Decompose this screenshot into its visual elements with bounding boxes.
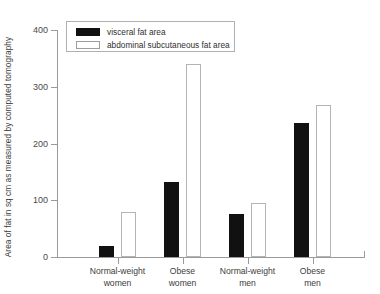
- y-axis-tick: [51, 257, 57, 258]
- bar-subcutaneous-0: [121, 212, 136, 257]
- bar-visceral-3: [294, 123, 309, 257]
- x-axis-tick: [313, 258, 314, 264]
- x-axis-tick: [248, 258, 249, 264]
- legend-swatch-open-icon: [76, 41, 100, 49]
- legend-item-subcutaneous: abdominal subcutaneous fat area: [76, 39, 234, 50]
- x-axis-tick: [118, 258, 119, 264]
- bar-visceral-0: [99, 246, 114, 257]
- y-axis-tick-label: 100: [8, 195, 48, 205]
- bar-subcutaneous-1: [186, 64, 201, 257]
- bar-subcutaneous-2: [251, 203, 266, 257]
- bar-subcutaneous-3: [316, 105, 331, 257]
- bar-visceral-1: [164, 182, 179, 257]
- y-axis-tick-label: 0: [8, 252, 48, 262]
- legend-label-subcutaneous: abdominal subcutaneous fat area: [107, 40, 230, 50]
- legend-label-visceral: visceral fat area: [107, 27, 166, 37]
- y-axis-tick-label: 300: [8, 82, 48, 92]
- x-axis-label-3: Obese men: [268, 266, 358, 289]
- x-axis-tick: [183, 258, 184, 264]
- bar-visceral-2: [229, 214, 244, 257]
- plot-area: [57, 30, 365, 257]
- y-axis-tick-label: 200: [8, 139, 48, 149]
- legend-item-visceral: visceral fat area: [76, 26, 234, 37]
- legend: visceral fat area abdominal subcutaneous…: [66, 21, 235, 52]
- bar-chart: Area of fat in sq cm as measured by comp…: [0, 0, 380, 294]
- x-axis-line: [57, 257, 365, 258]
- y-axis-tick-label: 400: [8, 25, 48, 35]
- legend-swatch-filled-icon: [76, 28, 100, 36]
